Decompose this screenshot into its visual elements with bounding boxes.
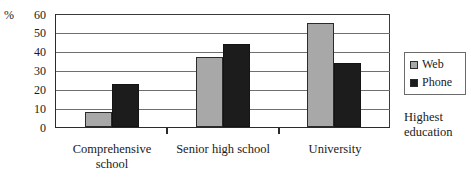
x-axis-tick-2: [278, 128, 280, 134]
bar-web-senior-high-school: [196, 57, 223, 127]
y-tick-label-10: 10: [22, 103, 46, 115]
y-tick-label-0: 0: [22, 122, 46, 134]
y-tick-label-20: 20: [22, 84, 46, 96]
x-category-label-line1: Comprehensive: [57, 142, 167, 157]
y-tick-label-60: 60: [22, 9, 46, 21]
bar-chart: % 60 50 40 30 20 10 0 Comprehensive s: [0, 0, 471, 189]
legend-label-web: Web: [422, 57, 444, 72]
x-category-label-senior-high-school: Senior high school: [168, 142, 278, 157]
y-tick-label-40: 40: [22, 46, 46, 58]
legend-swatch-phone-icon: [410, 79, 418, 87]
y-tick-label-30: 30: [22, 65, 46, 77]
y-axis-unit-label: %: [4, 9, 14, 21]
x-axis-tick-1: [166, 128, 168, 134]
x-axis-title: Highest education: [404, 110, 470, 140]
legend-label-phone: Phone: [422, 75, 452, 90]
legend-swatch-web-icon: [410, 61, 418, 69]
x-category-label-university: University: [280, 142, 390, 157]
bar-phone-senior-high-school: [223, 44, 250, 127]
bars-layer: [56, 14, 390, 127]
x-category-label-comprehensive-school: Comprehensive school: [57, 142, 167, 172]
bar-phone-university: [334, 63, 361, 127]
x-axis-title-line2: education: [404, 125, 470, 140]
x-axis-title-line1: Highest: [404, 110, 470, 125]
x-category-label-line1: Senior high school: [168, 142, 278, 157]
x-category-label-line1: University: [280, 142, 390, 157]
chart-legend: Web Phone: [404, 52, 466, 95]
y-tick-label-50: 50: [22, 27, 46, 39]
plot-area: [55, 14, 390, 128]
bar-web-university: [307, 23, 334, 127]
x-category-label-line2: school: [57, 157, 167, 172]
bar-web-comprehensive-school: [85, 112, 112, 127]
legend-item-phone: Phone: [410, 75, 461, 90]
bar-phone-comprehensive-school: [112, 84, 139, 127]
legend-item-web: Web: [410, 57, 461, 72]
